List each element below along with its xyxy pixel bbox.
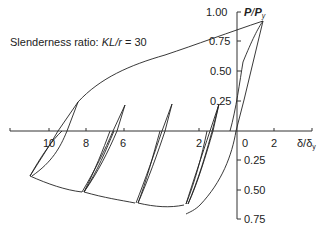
hysteresis-chart: 10 8 6 2 0 2 δ/δy 1.00 0.75 0.50 0.25 0.… (0, 0, 329, 231)
slenderness-annotation: Slenderness ratio: KL/r = 30 (10, 36, 147, 48)
y-tick-0.25: 0.25 (210, 95, 231, 107)
x-tick-8: 8 (83, 137, 89, 149)
y-tick-neg-0.75: 0.75 (244, 213, 265, 225)
y-tick-0.75: 0.75 (209, 35, 230, 47)
y-axis-title: P/Py (244, 6, 266, 20)
x-axis: 10 8 6 2 0 2 δ/δy (10, 128, 316, 151)
y-tick-neg-0.50: 0.50 (244, 184, 265, 196)
y-tick-1.00: 1.00 (206, 6, 227, 18)
x-tick-2-right: 2 (271, 137, 277, 149)
x-tick-6: 6 (120, 137, 126, 149)
x-tick-2-left: 2 (196, 137, 202, 149)
hysteresis-series (30, 21, 263, 214)
y-tick-0.50: 0.50 (210, 65, 231, 77)
y-tick-neg-0.25: 0.25 (244, 154, 265, 166)
x-axis-title: δ/δy (297, 137, 316, 151)
x-tick-0: 0 (242, 137, 248, 149)
